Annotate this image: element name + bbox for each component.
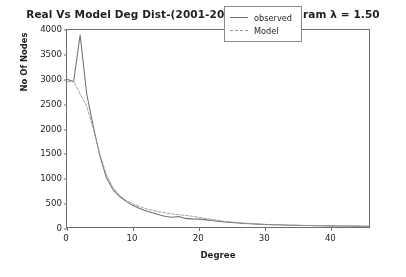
series-line-model: [67, 81, 369, 226]
legend-item-model: Model: [230, 24, 296, 37]
x-tick-mark: [199, 227, 200, 231]
x-tick-mark: [133, 227, 134, 231]
chart-figure: Real Vs Model Deg Dist-(2001-2006) Expon…: [0, 0, 406, 277]
x-tick-mark: [67, 227, 68, 231]
x-axis-label: Degree: [66, 250, 370, 260]
y-tick-label: 2000: [28, 124, 62, 134]
x-tick-label: 40: [315, 233, 345, 243]
y-tick-mark: [64, 79, 68, 80]
y-tick-label: 1000: [28, 173, 62, 183]
x-axis-tick-labels: 010203040: [66, 233, 370, 247]
chart-legend: observed Model: [224, 6, 302, 42]
x-tick-label: 30: [249, 233, 279, 243]
x-tick-label: 20: [183, 233, 213, 243]
y-tick-label: 1500: [28, 148, 62, 158]
y-tick-mark: [64, 204, 68, 205]
series-line-observed: [67, 35, 369, 226]
y-tick-label: 3500: [28, 49, 62, 59]
legend-label-observed: observed: [254, 13, 292, 23]
y-tick-mark: [64, 104, 68, 105]
y-tick-mark: [64, 179, 68, 180]
legend-line-swatch-observed: [230, 17, 248, 18]
y-tick-mark: [64, 54, 68, 55]
y-tick-mark: [64, 129, 68, 130]
x-tick-label: 0: [51, 233, 81, 243]
y-tick-mark: [64, 30, 68, 31]
y-tick-label: 0: [28, 223, 62, 233]
x-tick-mark: [331, 227, 332, 231]
legend-line-swatch-model: [230, 30, 248, 31]
y-tick-label: 2500: [28, 99, 62, 109]
legend-item-observed: observed: [230, 11, 296, 24]
y-tick-mark: [64, 154, 68, 155]
plot-area: [66, 29, 370, 228]
y-tick-label: 3000: [28, 74, 62, 84]
x-tick-label: 10: [117, 233, 147, 243]
y-axis-tick-labels: 05001000150020002500300035004000: [24, 29, 62, 228]
y-tick-label: 4000: [28, 24, 62, 34]
legend-label-model: Model: [254, 26, 279, 36]
y-tick-label: 500: [28, 198, 62, 208]
x-tick-mark: [265, 227, 266, 231]
chart-title: Real Vs Model Deg Dist-(2001-2006) Expon…: [0, 8, 406, 20]
plot-lines: [67, 30, 369, 227]
